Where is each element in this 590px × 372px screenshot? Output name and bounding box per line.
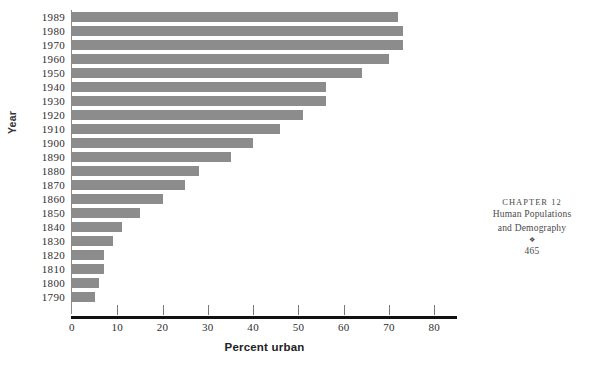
page-number: 465 bbox=[478, 245, 586, 259]
x-tick-label: 10 bbox=[111, 321, 123, 333]
chart-row: 1989 bbox=[72, 10, 457, 24]
x-tick-label: 20 bbox=[157, 321, 169, 333]
chart-bar bbox=[72, 180, 185, 190]
chart-bar bbox=[72, 54, 389, 64]
chart-row: 1790 bbox=[72, 290, 457, 304]
chart-row: 1800 bbox=[72, 276, 457, 290]
chart-bar bbox=[72, 166, 199, 176]
chart-bar bbox=[72, 96, 326, 106]
chart-row: 1960 bbox=[72, 52, 457, 66]
x-tick-label: 60 bbox=[338, 321, 350, 333]
chart-bar bbox=[72, 292, 95, 302]
x-tick-mark bbox=[389, 305, 390, 315]
x-tick-label: 30 bbox=[202, 321, 214, 333]
book-running-footer: Chapter 12 Human Populations and Demogra… bbox=[478, 196, 586, 258]
chart-row: 1950 bbox=[72, 66, 457, 80]
y-tick-label: 1970 bbox=[42, 38, 65, 52]
chart-row: 1840 bbox=[72, 220, 457, 234]
footer-chapter-label: Chapter 12 bbox=[478, 196, 586, 208]
chart-row: 1930 bbox=[72, 94, 457, 108]
chart-bar bbox=[72, 12, 398, 22]
x-tick-label: 70 bbox=[383, 321, 395, 333]
chart-bar bbox=[72, 124, 280, 134]
plot-area: 1989198019701960195019401930192019101900… bbox=[72, 10, 457, 312]
chart-bar bbox=[72, 82, 326, 92]
x-axis-title: Percent urban bbox=[72, 341, 457, 353]
y-tick-label: 1880 bbox=[42, 164, 65, 178]
y-tick-label: 1870 bbox=[42, 178, 65, 192]
chart-row: 1980 bbox=[72, 24, 457, 38]
figure-bar-chart-percent-urban: Year 19891980197019601950194019301920191… bbox=[0, 0, 470, 372]
y-tick-label: 1910 bbox=[42, 122, 65, 136]
y-tick-label: 1900 bbox=[42, 136, 65, 150]
chart-bar bbox=[72, 194, 163, 204]
y-tick-label: 1950 bbox=[42, 66, 65, 80]
x-tick-mark bbox=[117, 305, 118, 315]
y-tick-label: 1960 bbox=[42, 52, 65, 66]
chart-bar bbox=[72, 40, 403, 50]
x-tick-mark bbox=[163, 305, 164, 315]
y-tick-label: 1820 bbox=[42, 248, 65, 262]
y-tick-label: 1989 bbox=[42, 10, 65, 24]
x-tick-label: 40 bbox=[247, 321, 259, 333]
chart-row: 1900 bbox=[72, 136, 457, 150]
x-tick-mark bbox=[298, 305, 299, 315]
y-tick-label: 1840 bbox=[42, 220, 65, 234]
chart-row: 1890 bbox=[72, 150, 457, 164]
x-tick-label: 0 bbox=[69, 321, 75, 333]
footer-title-line-2: and Demography bbox=[478, 222, 586, 236]
y-tick-label: 1810 bbox=[42, 262, 65, 276]
chart-bar bbox=[72, 208, 140, 218]
chart-row: 1940 bbox=[72, 80, 457, 94]
chart-bar bbox=[72, 264, 104, 274]
y-tick-label: 1980 bbox=[42, 24, 65, 38]
chart-row: 1810 bbox=[72, 262, 457, 276]
y-tick-label: 1860 bbox=[42, 192, 65, 206]
chart-row: 1860 bbox=[72, 192, 457, 206]
chart-row: 1830 bbox=[72, 234, 457, 248]
x-tick-mark bbox=[208, 305, 209, 315]
chart-bar bbox=[72, 152, 231, 162]
x-tick-label: 50 bbox=[293, 321, 305, 333]
x-tick-mark bbox=[253, 305, 254, 315]
chart-bar bbox=[72, 250, 104, 260]
chart-row: 1850 bbox=[72, 206, 457, 220]
y-tick-label: 1920 bbox=[42, 108, 65, 122]
x-axis-line bbox=[71, 316, 457, 319]
chart-row: 1880 bbox=[72, 164, 457, 178]
y-tick-label: 1890 bbox=[42, 150, 65, 164]
chart-bar bbox=[72, 236, 113, 246]
x-tick-label: 80 bbox=[429, 321, 441, 333]
chart-bar bbox=[72, 278, 99, 288]
chart-bar bbox=[72, 138, 253, 148]
footer-title-line-1: Human Populations bbox=[478, 208, 586, 222]
chart-bar bbox=[72, 110, 303, 120]
y-tick-label: 1850 bbox=[42, 206, 65, 220]
chart-bar bbox=[72, 68, 362, 78]
y-tick-label: 1830 bbox=[42, 234, 65, 248]
chart-bar bbox=[72, 222, 122, 232]
y-axis-title: Year bbox=[6, 116, 18, 134]
chart-row: 1820 bbox=[72, 248, 457, 262]
chart-row: 1870 bbox=[72, 178, 457, 192]
x-tick-mark bbox=[434, 305, 435, 315]
y-tick-label: 1930 bbox=[42, 94, 65, 108]
chart-row: 1910 bbox=[72, 122, 457, 136]
y-tick-label: 1790 bbox=[42, 290, 65, 304]
chart-bar bbox=[72, 26, 403, 36]
x-tick-mark bbox=[344, 305, 345, 315]
chart-row: 1920 bbox=[72, 108, 457, 122]
diamond-ornament-icon: ❖ bbox=[478, 237, 586, 245]
y-tick-label: 1940 bbox=[42, 80, 65, 94]
y-tick-label: 1800 bbox=[42, 276, 65, 290]
chart-row: 1970 bbox=[72, 38, 457, 52]
